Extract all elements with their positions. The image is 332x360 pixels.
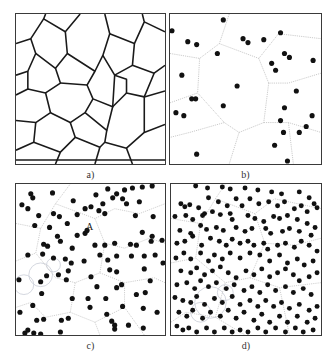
precipitate-dot <box>238 256 243 261</box>
precipitate-dot <box>58 329 63 334</box>
precipitate-dot <box>275 203 280 208</box>
grain-boundary <box>55 204 165 219</box>
precipitate-dot <box>119 282 124 287</box>
precipitate-dot <box>202 302 207 307</box>
precipitate-dot <box>246 330 251 335</box>
precipitate-dot <box>263 226 268 231</box>
precipitate-dot <box>190 217 195 222</box>
precipitate-dot <box>194 294 199 299</box>
precipitate-dot <box>230 217 235 222</box>
precipitate-dot <box>88 204 93 209</box>
precipitate-dot <box>242 288 247 293</box>
precipitate-dot <box>112 241 117 246</box>
precipitate-dot <box>217 239 222 244</box>
precipitate-dot <box>185 39 190 44</box>
precipitate-dot <box>263 298 268 303</box>
precipitate-dot <box>273 326 278 331</box>
precipitate-dot <box>140 230 145 235</box>
precipitate-dot <box>128 242 133 247</box>
precipitate-dot <box>305 209 310 214</box>
grain-boundary <box>288 123 293 164</box>
precipitate-dot <box>114 191 119 196</box>
precipitate-dot <box>244 268 249 273</box>
precipitate-dot <box>204 227 209 232</box>
precipitate-dot <box>55 234 60 239</box>
precipitate-dot <box>150 184 155 189</box>
precipitate-dot <box>240 203 245 208</box>
precipitate-dot <box>130 185 135 190</box>
precipitate-dot <box>17 310 22 315</box>
precipitate-dot <box>102 243 107 248</box>
precipitate-dot <box>114 269 119 274</box>
precipitate-dot <box>170 28 175 33</box>
precipitate-dot <box>31 330 36 335</box>
precipitate-dot <box>129 253 134 258</box>
precipitate-dot <box>174 324 179 329</box>
precipitate-dot <box>133 213 138 218</box>
precipitate-dot <box>75 212 80 217</box>
precipitate-dot <box>220 300 225 305</box>
precipitate-dot <box>292 245 297 250</box>
grain-boundary <box>259 34 321 59</box>
precipitate-dot <box>272 143 277 148</box>
precipitate-dot <box>202 211 207 216</box>
precipitate-dot <box>97 252 102 257</box>
precipitate-dot <box>75 233 80 238</box>
precipitate-dot <box>259 266 264 271</box>
precipitate-dot <box>238 302 243 307</box>
precipitate-dot <box>261 219 266 224</box>
precipitate-dot <box>297 302 302 307</box>
precipitate-dot <box>142 253 147 258</box>
precipitate-dot <box>56 272 61 277</box>
precipitate-dot <box>57 214 62 219</box>
precipitate-dot <box>174 282 179 287</box>
precipitate-dot <box>278 30 283 35</box>
grain-boundary <box>125 307 145 335</box>
precipitate-dot <box>228 211 233 216</box>
precipitate-dot <box>251 272 256 277</box>
panel-a <box>15 13 166 165</box>
grain-boundary <box>144 125 165 133</box>
precipitate-dot <box>283 241 288 246</box>
precipitate-dot <box>243 229 248 234</box>
grain-boundary <box>60 83 87 85</box>
precipitate-dot <box>285 260 290 265</box>
precipitate-dot <box>107 267 112 272</box>
precipitate-dot <box>82 258 87 263</box>
precipitate-dot <box>40 252 45 257</box>
precipitate-dot <box>234 225 239 230</box>
precipitate-dot <box>92 243 97 248</box>
precipitate-dot <box>93 192 98 197</box>
grain-boundary <box>16 123 36 151</box>
precipitate-dot <box>291 272 296 277</box>
precipitate-dot <box>218 212 223 217</box>
precipitate-dot <box>194 152 199 157</box>
precipitate-dot <box>282 105 287 110</box>
precipitate-dot <box>190 308 195 313</box>
grain-boundary <box>100 273 165 283</box>
precipitate-dot <box>208 236 213 241</box>
precipitate-dot <box>87 305 92 310</box>
precipitate-dot <box>196 205 201 210</box>
grain-boundary <box>110 14 145 44</box>
precipitate-dot <box>137 199 142 204</box>
precipitate-dot <box>216 199 221 204</box>
grain-boundary <box>75 137 105 147</box>
precipitate-dot <box>173 256 178 261</box>
precipitate-dot <box>182 239 187 244</box>
precipitate-dot <box>70 296 75 301</box>
precipitate-dot <box>310 113 315 118</box>
precipitate-dot <box>181 113 186 118</box>
precipitate-dot <box>38 331 43 335</box>
precipitate-dot <box>234 316 239 321</box>
precipitate-dot <box>280 229 285 234</box>
precipitate-dot <box>221 228 226 233</box>
precipitate-dot <box>247 196 252 201</box>
precipitate-dot <box>230 237 235 242</box>
precipitate-dot <box>50 190 55 195</box>
precipitate-dot <box>305 320 310 325</box>
grain-boundary <box>34 142 61 152</box>
micrograph-c <box>16 184 165 335</box>
precipitate-dot <box>200 316 205 321</box>
grain-boundary <box>132 44 165 74</box>
